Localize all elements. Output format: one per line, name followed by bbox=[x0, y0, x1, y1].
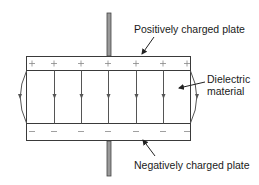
bottom-lead-wire bbox=[107, 141, 111, 176]
right-fringe-arrowhead bbox=[195, 94, 199, 99]
left-fringe-field-line bbox=[20, 71, 26, 123]
negative-plate bbox=[27, 124, 191, 141]
negative-plate-pointer-arrow bbox=[143, 140, 155, 156]
left-fringe-arrowhead bbox=[18, 94, 22, 99]
right-fringe-field-line bbox=[191, 71, 197, 123]
top-lead-wire bbox=[107, 13, 111, 56]
dielectric-label-line1: Dielectric bbox=[207, 73, 250, 85]
positive-plate-label: Positively charged plate bbox=[134, 23, 245, 35]
dielectric-label-line2: material bbox=[207, 85, 244, 97]
positive-plate-pointer-arrow bbox=[142, 37, 154, 54]
negative-plate-label: Negatively charged plate bbox=[134, 159, 250, 171]
dielectric-pointer-arrow bbox=[179, 82, 205, 88]
